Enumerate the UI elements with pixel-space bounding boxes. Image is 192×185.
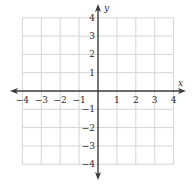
- y-tick-label: −4: [82, 159, 96, 169]
- x-tick-label: 4: [171, 95, 177, 105]
- axes: [10, 4, 186, 180]
- y-tick-label: −1: [82, 104, 95, 114]
- y-tick-label: 3: [89, 31, 95, 41]
- x-tick-label: 2: [133, 95, 139, 105]
- x-tick-label: −2: [54, 95, 67, 105]
- x-axis-label: x: [178, 78, 183, 88]
- y-tick-label: 1: [89, 68, 95, 78]
- y-tick-label: −3: [82, 141, 96, 151]
- x-tick-label: 1: [114, 95, 120, 105]
- y-tick-label: 4: [89, 13, 95, 23]
- x-tick-label: 3: [152, 95, 158, 105]
- x-tick-labels: −4−3−2−11234: [16, 95, 177, 105]
- coordinate-plane: −4−3−2−11234 4321−1−2−3−4 x y: [0, 0, 192, 185]
- y-tick-label: 2: [89, 49, 95, 59]
- x-tick-label: −4: [16, 95, 30, 105]
- x-tick-label: −3: [35, 95, 49, 105]
- y-axis-label: y: [103, 3, 110, 13]
- y-tick-label: −2: [82, 123, 95, 133]
